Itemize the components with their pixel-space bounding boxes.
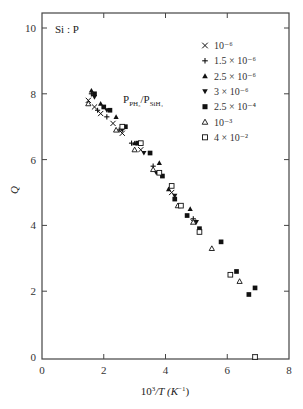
x-tick-label: 2 (101, 364, 107, 376)
marker-square-filled-icon (202, 104, 207, 109)
marker-square-open-icon (197, 230, 202, 235)
marker-+-icon (104, 114, 109, 119)
legend-item: 10⁻⁶ (202, 40, 233, 51)
marker-square-open-icon (157, 170, 162, 175)
x-tick-label: 8 (286, 364, 292, 376)
marker-square-filled-icon (92, 91, 97, 96)
x-axis-label: 103/T (K−1) (141, 385, 190, 398)
legend-label: 10⁻³ (214, 117, 232, 128)
series-1.5x10^-6 (89, 91, 196, 221)
marker-triangle-down-filled-icon (202, 89, 208, 94)
marker-triangle-up-open-icon (151, 167, 156, 172)
marker-square-open-icon (169, 184, 174, 189)
data-points (86, 88, 258, 360)
y-tick-label: 0 (31, 351, 37, 363)
annotation-ratio: PPH₃/PSiH₄ (123, 93, 164, 108)
x-tick-label: 0 (39, 364, 45, 376)
legend-label: 2.5 × 10⁻⁴ (214, 101, 256, 112)
annotation-material: Si : P (55, 23, 79, 35)
legend-item: 4 × 10⁻² (202, 132, 247, 143)
x-tick-label: 4 (163, 364, 169, 376)
series-4x10^-2 (120, 124, 257, 359)
marker-square-open-icon (120, 124, 125, 129)
marker-square-filled-icon (185, 213, 190, 218)
legend-label: 2.5 × 10⁻⁶ (214, 71, 256, 82)
legend-label: 1.5 × 10⁻⁶ (214, 55, 256, 66)
marker-square-filled-icon (253, 286, 258, 291)
marker-triangle-up-filled-icon (188, 206, 193, 211)
marker-triangle-up-open-icon (237, 279, 242, 284)
marker-square-open-icon (253, 355, 258, 360)
marker-triangle-up-filled-icon (202, 73, 208, 78)
scatter-chart: 024680246810 Si : P PPH₃/PSiH₄ Q 103/T (… (0, 0, 303, 409)
marker-square-open-icon (228, 272, 233, 277)
marker-square-filled-icon (101, 105, 106, 110)
marker-square-open-icon (202, 135, 207, 140)
marker-square-open-icon (179, 203, 184, 208)
y-tick-label: 2 (31, 285, 37, 297)
legend-item: 10⁻³ (202, 117, 232, 128)
marker-square-filled-icon (219, 240, 224, 245)
legend-item: 2.5 × 10⁻⁶ (202, 71, 256, 82)
marker-triangle-up-filled-icon (114, 114, 119, 119)
y-axis-label: Q (8, 186, 20, 194)
y-tick-label: 10 (25, 22, 37, 34)
legend-label: 3 × 10⁻⁶ (214, 86, 249, 97)
legend-item: 2.5 × 10⁻⁴ (202, 101, 256, 112)
series-10^-3 (86, 101, 242, 283)
marker-triangle-up-open-icon (132, 147, 137, 152)
marker-+-icon (202, 58, 208, 64)
x-tick-label: 6 (225, 364, 231, 376)
marker-triangle-up-open-icon (202, 119, 208, 124)
marker-triangle-down-filled-icon (141, 151, 146, 156)
legend-item: 3 × 10⁻⁶ (202, 86, 249, 97)
marker-square-open-icon (138, 141, 143, 146)
marker-triangle-up-open-icon (209, 246, 214, 251)
legend: 10⁻⁶1.5 × 10⁻⁶2.5 × 10⁻⁶3 × 10⁻⁶2.5 × 10… (202, 40, 256, 143)
y-tick-label: 6 (31, 154, 37, 166)
marker-x-icon (98, 111, 103, 116)
y-tick-label: 8 (31, 88, 37, 100)
marker-square-filled-icon (247, 292, 252, 297)
marker-x-icon (110, 121, 115, 126)
marker-square-filled-icon (148, 151, 153, 156)
y-tick-label: 4 (31, 219, 37, 231)
marker-triangle-up-filled-icon (157, 160, 162, 165)
legend-label: 4 × 10⁻² (214, 132, 248, 143)
legend-label: 10⁻⁶ (214, 40, 233, 51)
legend-item: 1.5 × 10⁻⁶ (202, 55, 256, 66)
marker-x-icon (202, 43, 208, 49)
marker-square-filled-icon (172, 197, 177, 202)
marker-square-filled-icon (234, 269, 239, 274)
marker-x-icon (92, 104, 97, 109)
marker-square-filled-icon (108, 108, 113, 113)
